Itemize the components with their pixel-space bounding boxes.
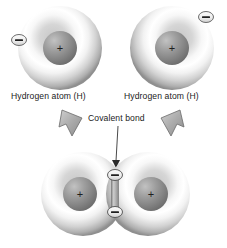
proton-symbol: + [169, 42, 175, 54]
electron-minus-sign [15, 39, 23, 41]
arrow-left-icon [59, 110, 82, 136]
shared-electron-top [108, 170, 123, 181]
covalent-bond-pointer [112, 126, 120, 168]
label-covalent-bond: Covalent bond [88, 114, 145, 123]
electron-minus-sign [202, 16, 210, 18]
bond-bar [112, 177, 119, 211]
atom-top-right-hydrogen: + [130, 6, 214, 90]
proton-symbol: + [77, 188, 83, 200]
electron [12, 35, 27, 46]
electron-minus-sign [111, 211, 119, 213]
label-hydrogen-atom-right: Hydrogen atom (H) [124, 92, 199, 101]
proton-symbol: + [148, 188, 154, 200]
diagram-canvas: + + [0, 0, 227, 248]
electron-minus-sign [111, 174, 119, 176]
atom-top-left-hydrogen: + [12, 6, 103, 90]
shared-electron-bottom [108, 207, 123, 218]
electron [199, 12, 214, 23]
arrow-right-icon [161, 110, 184, 136]
proton-symbol: + [57, 42, 63, 54]
label-hydrogen-atom-left: Hydrogen atom (H) [11, 92, 86, 101]
